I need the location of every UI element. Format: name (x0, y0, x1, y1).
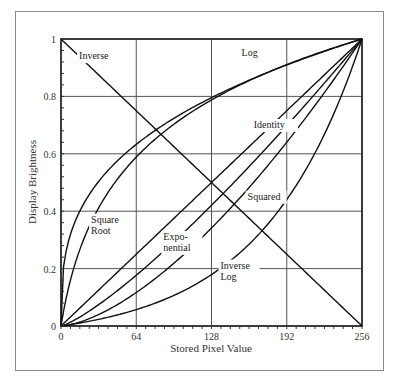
x-tick-label: 192 (279, 331, 294, 342)
curve-labels: InverseLogSquareRootIdentitySquaredExpo-… (77, 47, 298, 283)
x-tick-label: 256 (355, 331, 370, 342)
curve-label: nential (163, 242, 190, 253)
y-axis-label: Display Brightness (26, 140, 38, 224)
curve-label: Square (91, 214, 119, 225)
curve-label: Root (91, 225, 111, 236)
curve-label: Squared (248, 191, 281, 202)
x-tick-label: 128 (204, 331, 219, 342)
y-tick-label: 0.2 (44, 264, 57, 275)
curve-label: Inverse (221, 260, 251, 271)
x-tick-label: 0 (59, 331, 64, 342)
y-tick-label: 0 (51, 321, 56, 332)
x-axis-label: Stored Pixel Value (170, 342, 252, 354)
y-tick-label: 0.4 (44, 206, 57, 217)
curve-label: Log (242, 47, 258, 58)
chart-plot: 06412819225600.20.40.60.81 InverseLogSqu… (0, 0, 399, 390)
curve-label: Identity (254, 119, 285, 130)
y-tick-label: 1 (51, 34, 56, 45)
curve-label: Inverse (79, 50, 109, 61)
x-tick-label: 64 (131, 331, 141, 342)
y-tick-label: 0.6 (44, 149, 57, 160)
y-tick-label: 0.8 (44, 91, 57, 102)
curve-label: Expo- (163, 231, 187, 242)
curve-label: Log (221, 271, 237, 282)
